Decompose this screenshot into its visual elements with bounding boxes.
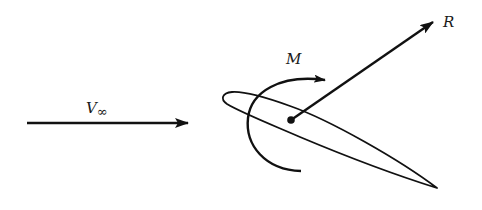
resultant-arrow <box>291 22 433 120</box>
moment-arc <box>248 79 325 171</box>
resultant-label: R <box>442 13 454 31</box>
reference-point <box>287 116 295 124</box>
airfoil-shape <box>223 92 437 188</box>
freestream-label: V∞ <box>86 99 108 119</box>
moment: M <box>248 50 325 171</box>
moment-label: M <box>285 50 302 68</box>
resultant-force: R <box>287 13 454 124</box>
freestream-velocity: V∞ <box>27 99 188 123</box>
airfoil-force-diagram: V∞ M R <box>0 0 482 210</box>
